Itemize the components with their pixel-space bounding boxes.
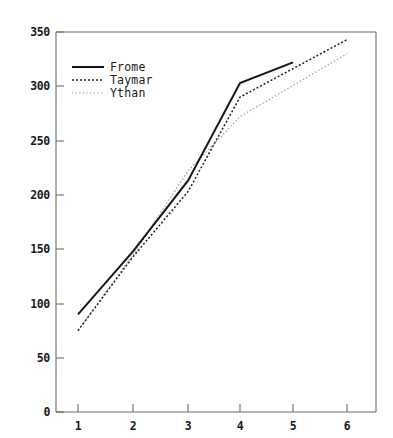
- y-tick-label-300: 300: [30, 79, 50, 93]
- x-tick-label-3: 3: [185, 419, 192, 433]
- legend-item-ythan[interactable]: Ythan: [72, 86, 146, 100]
- series-line-frome[interactable]: [78, 62, 293, 314]
- legend: Frome Taymar Ythan: [72, 60, 153, 100]
- legend-label-frome: Frome: [110, 60, 146, 74]
- y-tick-label-350: 350: [30, 25, 50, 39]
- x-tick-label-2: 2: [130, 419, 137, 433]
- y-tick-label-100: 100: [30, 297, 50, 311]
- legend-label-ythan: Ythan: [110, 86, 146, 100]
- legend-item-taymar[interactable]: Taymar: [72, 73, 153, 87]
- y-tick-label-50: 50: [37, 351, 51, 365]
- y-axis-ticks: [56, 32, 64, 412]
- y-axis-tick-labels: 350 300 250 200 150 100 50 0: [30, 25, 50, 419]
- y-tick-label-150: 150: [30, 242, 50, 256]
- y-tick-label-200: 200: [30, 188, 50, 202]
- x-tick-label-1: 1: [75, 419, 82, 433]
- line-chart: 350 300 250 200 150 100 50 0 1 2 3 4 5 6: [0, 0, 393, 438]
- x-axis-ticks: [78, 404, 347, 412]
- y-tick-label-0: 0: [43, 405, 50, 419]
- legend-label-taymar: Taymar: [110, 73, 153, 87]
- plot-frame: [56, 32, 376, 412]
- x-tick-label-4: 4: [237, 419, 244, 433]
- y-tick-label-250: 250: [30, 134, 50, 148]
- x-tick-label-6: 6: [344, 419, 351, 433]
- x-tick-label-5: 5: [290, 419, 297, 433]
- plot-canvas: 350 300 250 200 150 100 50 0 1 2 3 4 5 6: [0, 0, 393, 438]
- x-axis-tick-labels: 1 2 3 4 5 6: [75, 419, 351, 433]
- legend-item-frome[interactable]: Frome: [72, 60, 146, 74]
